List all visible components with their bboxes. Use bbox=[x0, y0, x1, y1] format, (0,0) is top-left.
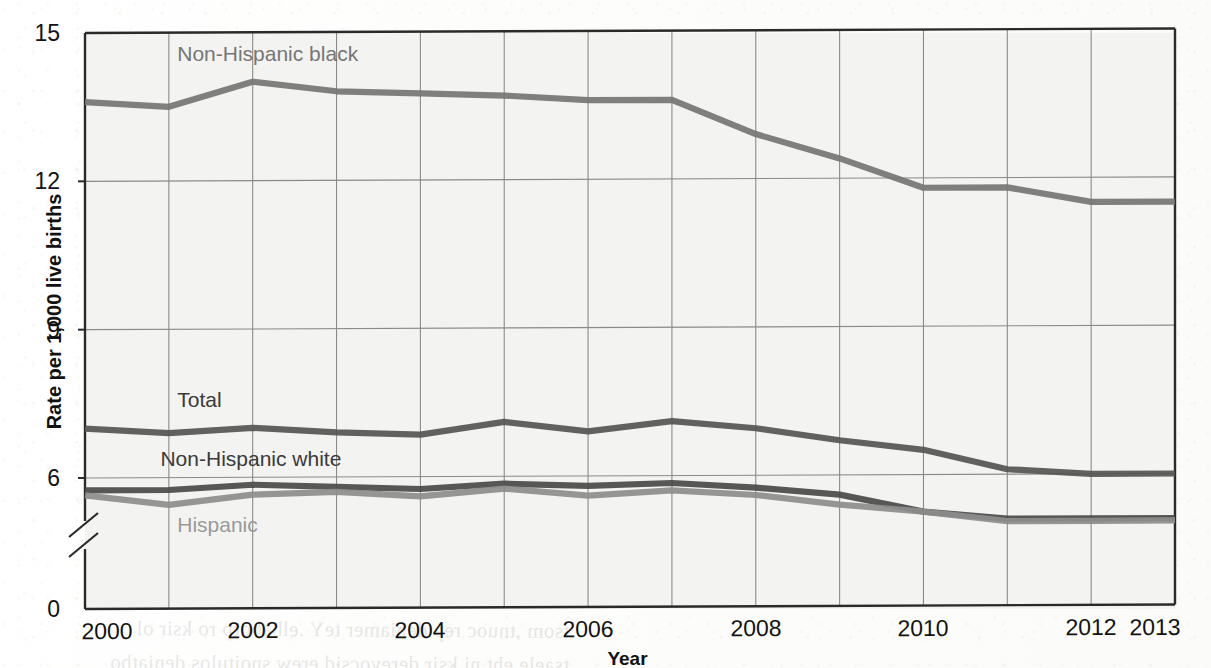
y-tick-label: 0 bbox=[0, 596, 60, 623]
x-tick-label: 2012 bbox=[1065, 614, 1116, 641]
series-label-total: Total bbox=[177, 388, 221, 412]
y-axis-title: Rate per 1,000 live births bbox=[43, 162, 66, 462]
y-tick-label: 15 bbox=[0, 20, 60, 47]
x-tick-label: 2004 bbox=[395, 616, 446, 643]
line-chart-figure: 0691215 20002002200420062008201020122013… bbox=[0, 0, 1211, 668]
series-label-non-hispanic-white: Non-Hispanic white bbox=[160, 447, 341, 471]
chart-plot-area bbox=[0, 0, 1211, 668]
x-tick-label: 2006 bbox=[562, 616, 613, 643]
x-tick-label: 2000 bbox=[81, 618, 132, 645]
x-tick-label: 2013 bbox=[1129, 613, 1180, 640]
x-tick-label: 2002 bbox=[227, 617, 278, 644]
series-label-non-hispanic-black: Non-Hispanic black bbox=[177, 42, 358, 66]
x-tick-label: 2010 bbox=[898, 614, 949, 641]
x-axis-title: Year bbox=[0, 648, 1211, 668]
series-label-hispanic: Hispanic bbox=[177, 513, 258, 537]
x-axis-title-text: Year bbox=[607, 648, 647, 668]
y-tick-label: 6 bbox=[0, 465, 60, 492]
x-tick-label: 2008 bbox=[730, 615, 781, 642]
